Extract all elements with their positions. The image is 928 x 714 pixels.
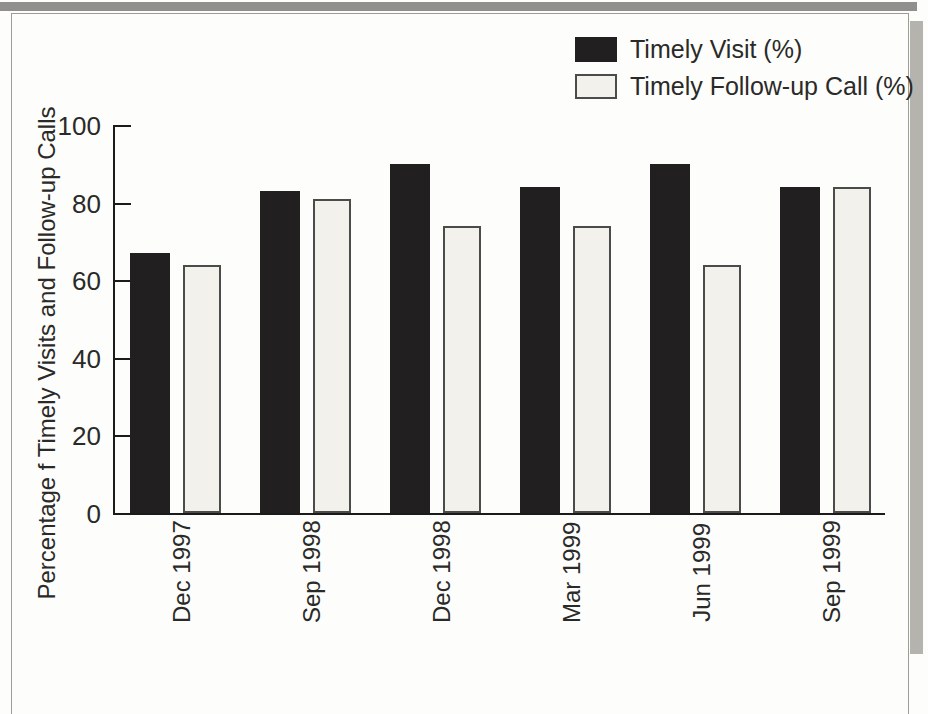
bar-timely-visit (650, 164, 690, 513)
y-tick-label-60: 60 (31, 267, 101, 295)
bar-timely-followup-call (833, 187, 871, 513)
legend: Timely Visit (%) Timely Follow-up Call (… (575, 36, 914, 99)
y-tick-0 (115, 513, 131, 515)
legend-item-timely-followup-call: Timely Follow-up Call (%) (575, 73, 914, 99)
y-axis (113, 125, 115, 515)
legend-label-timely-followup-call: Timely Follow-up Call (%) (630, 73, 914, 99)
x-axis-label: Dec 1998 (427, 523, 457, 623)
x-axis-label: Sep 1998 (297, 523, 327, 623)
scan-shadow-right (910, 21, 923, 654)
legend-label-timely-visit: Timely Visit (%) (630, 36, 802, 62)
legend-swatch-timely-visit (575, 37, 617, 62)
bar-timely-followup-call (313, 199, 351, 513)
y-tick-label-100: 100 (31, 112, 101, 140)
bar-timely-followup-call (183, 265, 221, 513)
legend-item-timely-visit: Timely Visit (%) (575, 36, 914, 62)
x-axis-label: Dec 1997 (167, 523, 197, 623)
y-tick-20 (115, 435, 131, 437)
x-axis-label: Sep 1999 (817, 523, 847, 623)
y-tick-80 (115, 203, 131, 205)
legend-swatch-timely-followup-call (575, 74, 617, 99)
y-tick-60 (115, 280, 131, 282)
bar-timely-visit (520, 187, 560, 513)
bar-timely-followup-call (703, 265, 741, 513)
bar-timely-visit (260, 191, 300, 513)
bar-timely-followup-call (443, 226, 481, 513)
y-tick-label-80: 80 (31, 190, 101, 218)
bar-timely-visit (130, 253, 170, 513)
x-axis-label: Jun 1999 (687, 523, 717, 623)
bar-timely-followup-call (573, 226, 611, 513)
bar-timely-visit (390, 164, 430, 513)
y-tick-label-20: 20 (31, 422, 101, 450)
y-tick-label-40: 40 (31, 345, 101, 373)
y-tick-100 (115, 125, 131, 127)
x-axis-label: Mar 1999 (557, 523, 587, 623)
bar-timely-visit (780, 187, 820, 513)
y-tick-label-0: 0 (31, 500, 101, 528)
scan-edge-top (0, 2, 917, 11)
x-axis (113, 513, 885, 515)
y-tick-40 (115, 358, 131, 360)
